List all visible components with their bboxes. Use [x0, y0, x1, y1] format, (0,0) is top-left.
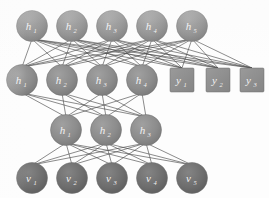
node-label-base: h — [146, 20, 152, 32]
node-h2[interactable]: h2 — [57, 11, 88, 42]
node-h1[interactable]: h1 — [51, 115, 82, 146]
node-v4[interactable]: v4 — [137, 163, 168, 194]
node-v2[interactable]: v2 — [57, 163, 88, 194]
connection-edge — [146, 143, 192, 165]
node-shape-circle — [7, 65, 38, 96]
node-shape-circle — [177, 11, 208, 42]
connection-edge — [22, 93, 106, 117]
node-y3[interactable]: y3 — [240, 68, 264, 92]
node-label-base: v — [66, 172, 71, 184]
node-label-subscript: 1 — [34, 27, 37, 34]
node-label-base: v — [106, 172, 111, 184]
node-h5[interactable]: h5 — [177, 11, 208, 42]
node-label-base: h — [186, 20, 192, 32]
node-shape-circle — [97, 163, 128, 194]
connection-edge — [22, 93, 66, 117]
node-shape-circle — [97, 11, 128, 42]
node-shape-circle — [17, 163, 48, 194]
node-label-subscript: 3 — [253, 81, 258, 88]
node-shape-square — [240, 68, 264, 92]
connection-edge — [66, 143, 152, 165]
node-label-base: h — [100, 124, 106, 136]
node-label-base: y — [211, 74, 217, 86]
node-v3[interactable]: v3 — [97, 163, 128, 194]
node-label-base: h — [136, 74, 142, 86]
node-label-base: h — [16, 74, 22, 86]
node-label-base: v — [146, 172, 151, 184]
node-label-base: h — [66, 20, 72, 32]
node-label-base: h — [60, 124, 66, 136]
node-v1[interactable]: v1 — [17, 163, 48, 194]
node-label-subscript: 1 — [184, 81, 187, 88]
node-h2[interactable]: h2 — [47, 65, 78, 96]
node-shape-circle — [51, 115, 82, 146]
connection-edge — [62, 93, 146, 117]
node-shape-circle — [87, 65, 118, 96]
node-label-base: v — [26, 172, 31, 184]
connection-edge — [22, 93, 146, 117]
connection-edge — [22, 39, 32, 67]
node-shape-circle — [177, 163, 208, 194]
connection-edge — [102, 93, 146, 117]
node-h3[interactable]: h3 — [131, 115, 162, 146]
node-y1[interactable]: y1 — [170, 68, 194, 92]
node-label-base: h — [56, 74, 62, 86]
node-label-base: h — [106, 20, 112, 32]
node-label-base: v — [186, 172, 191, 184]
node-shape-circle — [137, 163, 168, 194]
node-label-subscript: 3 — [113, 27, 118, 34]
connection-edge — [32, 39, 218, 68]
node-label-subscript: 1 — [34, 179, 37, 186]
node-h4[interactable]: h4 — [137, 11, 168, 42]
node-label-subscript: 3 — [113, 179, 118, 186]
node-h4[interactable]: h4 — [127, 65, 158, 96]
node-shape-circle — [131, 115, 162, 146]
connection-edge — [106, 143, 192, 165]
connection-edge — [66, 143, 112, 165]
node-shape-circle — [127, 65, 158, 96]
connection-edge — [142, 93, 146, 117]
node-v5[interactable]: v5 — [177, 163, 208, 194]
node-label-base: h — [96, 74, 102, 86]
node-shape-square — [206, 68, 230, 92]
node-label-base: h — [26, 20, 32, 32]
node-h1[interactable]: h1 — [17, 11, 48, 42]
nodes-group: h1h2h3h4h5h1h2h3h4y1y2y3h1h2h3v1v2v3v4v5 — [7, 11, 265, 194]
node-shape-square — [170, 68, 194, 92]
node-h3[interactable]: h3 — [97, 11, 128, 42]
edges-group — [22, 39, 252, 165]
node-shape-circle — [57, 11, 88, 42]
node-label-base: h — [140, 124, 146, 136]
node-h2[interactable]: h2 — [91, 115, 122, 146]
node-y2[interactable]: y2 — [206, 68, 230, 92]
connection-edge — [66, 143, 72, 165]
network-graph-svg: h1h2h3h4h5h1h2h3h4y1y2y3h1h2h3v1v2v3v4v5 — [0, 0, 269, 198]
network-diagram: h1h2h3h4h5h1h2h3h4y1y2y3h1h2h3v1v2v3v4v5 — [0, 0, 269, 198]
node-shape-circle — [137, 11, 168, 42]
node-shape-circle — [91, 115, 122, 146]
node-label-subscript: 1 — [24, 81, 27, 88]
node-label-base: y — [175, 74, 181, 86]
node-label-base: y — [245, 74, 251, 86]
connection-edge — [32, 39, 182, 68]
node-label-subscript: 3 — [103, 81, 108, 88]
node-h3[interactable]: h3 — [87, 65, 118, 96]
node-shape-circle — [57, 163, 88, 194]
node-h1[interactable]: h1 — [7, 65, 38, 96]
node-shape-circle — [17, 11, 48, 42]
node-label-subscript: 3 — [147, 131, 152, 138]
node-label-subscript: 1 — [68, 131, 71, 138]
node-shape-circle — [47, 65, 78, 96]
